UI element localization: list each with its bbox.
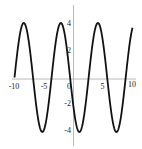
x-tick-label: -5 [41,82,48,91]
x-tick-label: 10 [128,80,136,89]
sine-chart: -10 -5 0 5 10 4 2 -2 -4 [0,0,142,149]
y-tick-label: -4 [64,126,71,135]
y-tick-label: -2 [64,99,71,108]
x-tick-label: -10 [9,82,20,91]
plot-area: -10 -5 0 5 10 4 2 -2 -4 [0,0,142,149]
x-tick-label: 5 [101,82,105,91]
y-tick-label: 4 [67,19,71,28]
